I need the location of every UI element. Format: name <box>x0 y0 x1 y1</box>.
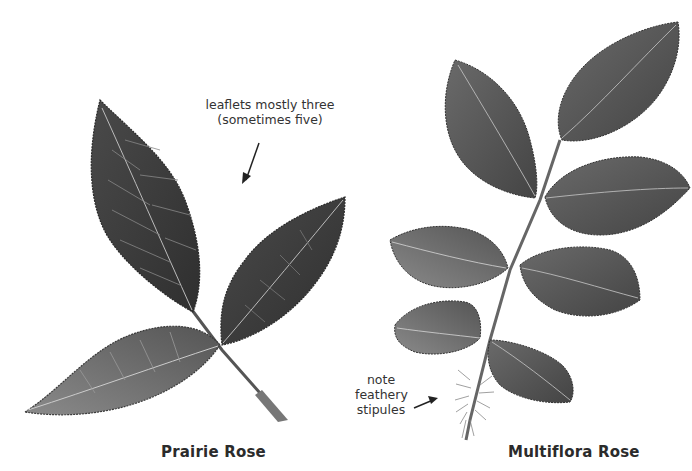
prairie-annotation-arrow <box>242 143 259 184</box>
annotation-line: feathery <box>355 387 407 402</box>
multiflora-rose-leaf <box>390 22 690 440</box>
top-right-leaflet <box>558 22 679 141</box>
multiflora-stipule-annotation: note feathery stipules <box>355 372 407 417</box>
prairie-rose-caption: Prairie Rose <box>161 443 266 461</box>
left-lateral-leaflet <box>25 326 220 415</box>
middle-right-leaflet <box>545 157 690 235</box>
lower-left-leaflet <box>395 301 481 354</box>
leaf-illustrations <box>0 0 692 471</box>
multiflora-rose-caption: Multiflora Rose <box>508 443 640 461</box>
multiflora-annotation-arrow <box>414 396 438 408</box>
top-left-leaflet <box>445 60 537 198</box>
prairie-leaflet-annotation: leaflets mostly three (sometimes five) <box>190 97 350 127</box>
annotation-line: (sometimes five) <box>190 112 350 127</box>
annotation-line: leaflets mostly three <box>190 97 350 112</box>
lower-right-leaflet <box>520 247 640 316</box>
rose-leaf-comparison-figure: leaflets mostly three (sometimes five) n… <box>0 0 692 471</box>
annotation-line: note <box>355 372 407 387</box>
terminal-leaflet <box>91 100 199 312</box>
middle-left-leaflet <box>390 226 508 287</box>
annotation-line: stipules <box>355 402 407 417</box>
right-lateral-leaflet <box>221 197 345 345</box>
prairie-rose-leaf <box>25 100 345 422</box>
bottom-leaflet <box>488 340 573 403</box>
